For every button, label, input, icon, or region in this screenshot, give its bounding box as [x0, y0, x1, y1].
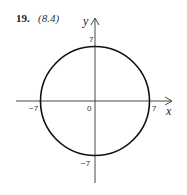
origin-label: 0 — [87, 105, 91, 113]
x-axis-label: x — [166, 105, 171, 117]
coordinate-plane — [0, 0, 187, 195]
tick-label-y-pos: 7 — [89, 36, 93, 44]
tick-label-y-neg: −7 — [81, 160, 90, 168]
tick-label-x-neg: −7 — [29, 105, 38, 113]
y-axis-label: y — [83, 15, 88, 27]
tick-label-x-pos: 7 — [152, 105, 156, 113]
